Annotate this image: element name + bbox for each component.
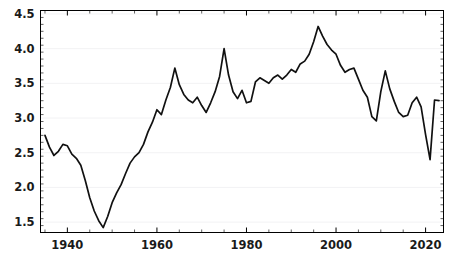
y-tick-label: 4.0 bbox=[14, 42, 34, 56]
line-chart: 19401960198020002020 1.52.02.53.03.54.04… bbox=[0, 0, 455, 270]
chart-plot-area: 19401960198020002020 1.52.02.53.03.54.04… bbox=[0, 0, 455, 270]
x-tick-label: 1960 bbox=[141, 238, 173, 252]
y-tick-label: 2.5 bbox=[14, 146, 34, 160]
x-tick-label: 2000 bbox=[320, 238, 352, 252]
y-tick-label: 4.5 bbox=[14, 7, 34, 21]
y-tick-label: 2.0 bbox=[14, 180, 34, 194]
x-tick-label: 2020 bbox=[410, 238, 442, 252]
chart-background bbox=[0, 0, 455, 270]
x-tick-label: 1980 bbox=[230, 238, 262, 252]
y-tick-label: 3.5 bbox=[14, 76, 34, 90]
x-tick-label: 1940 bbox=[51, 238, 83, 252]
y-tick-label: 3.0 bbox=[14, 111, 34, 125]
y-tick-label: 1.5 bbox=[14, 215, 34, 229]
